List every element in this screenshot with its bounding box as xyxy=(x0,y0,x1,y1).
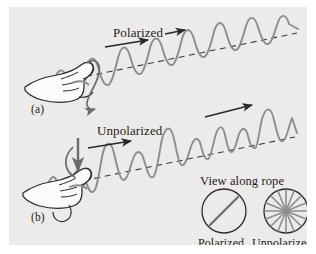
cross-section-polarized xyxy=(202,189,246,233)
cross-section-label-polarized: Polarized xyxy=(198,236,244,245)
cross-section-unpolarized xyxy=(264,189,307,233)
figure-root: Polarized Unpolarized (a) (b) View along… xyxy=(0,0,316,254)
panel-label-a: (a) xyxy=(31,103,44,115)
propagation-arrow-a-2 xyxy=(165,30,185,34)
panel-label-b: (b) xyxy=(31,211,45,223)
cross-section-label-unpolarized: Unpolarized xyxy=(252,236,307,245)
propagation-arrow-b-upper xyxy=(205,105,252,117)
figure-panel: Polarized Unpolarized (a) (b) View along… xyxy=(9,7,307,245)
propagation-arrow-b xyxy=(88,141,131,148)
hand-illustration-a xyxy=(25,62,94,102)
propagation-arrow-a xyxy=(105,40,148,47)
polarized-wave xyxy=(53,16,298,96)
wave-label-unpolarized: Unpolarized xyxy=(97,123,162,139)
view-along-rope-title: View along rope xyxy=(200,174,284,189)
wave-label-polarized: Polarized xyxy=(113,25,163,41)
